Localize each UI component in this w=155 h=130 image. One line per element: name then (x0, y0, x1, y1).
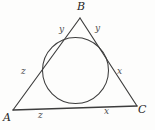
side-label-y-right: y (95, 24, 100, 33)
inscribed-circle (43, 38, 109, 104)
vertex-label-a: A (3, 112, 11, 123)
triangle-side-ab (13, 18, 80, 110)
side-label-y-left: y (59, 25, 64, 34)
vertex-label-b: B (77, 1, 85, 12)
triangle-incircle-svg (0, 0, 155, 130)
side-label-z-left: z (21, 67, 26, 76)
vertex-label-c: C (138, 104, 146, 115)
geometry-figure: B A C y y z z x x (0, 0, 155, 130)
triangle-side-ac (13, 106, 137, 110)
side-label-x-right: x (117, 67, 122, 76)
side-label-z-bottom: z (38, 111, 43, 120)
side-label-x-bottom: x (104, 107, 109, 116)
triangle-side-bc (80, 18, 137, 106)
